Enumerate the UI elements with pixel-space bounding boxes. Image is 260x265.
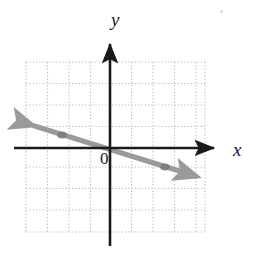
- function-line: [33, 126, 197, 177]
- coordinate-plane-figure: y x 0: [0, 0, 260, 265]
- x-axis-label: x: [233, 140, 241, 159]
- y-axis-label: y: [111, 10, 119, 29]
- scan-artifact-speck: [220, 10, 223, 13]
- origin-label: 0: [100, 150, 109, 167]
- plot-svg: [0, 0, 260, 265]
